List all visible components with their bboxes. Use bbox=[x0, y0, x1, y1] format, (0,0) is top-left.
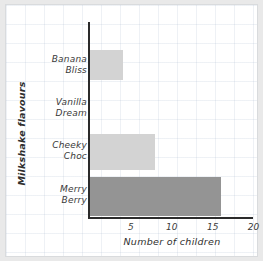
category-label-line2: Berry bbox=[13, 195, 87, 206]
bar-merry-berry bbox=[90, 177, 221, 216]
chart-page: Banana Bliss Vanilla Dream Cheeky Choc M… bbox=[0, 0, 263, 261]
bar-cheeky-choc bbox=[90, 134, 155, 170]
y-axis-title: Milkshake flavours bbox=[16, 74, 27, 194]
x-axis-title: Number of children bbox=[88, 236, 256, 247]
x-axis-line bbox=[88, 217, 253, 219]
category-label-line1: Merry bbox=[60, 184, 87, 194]
x-tick-label-15: 15 bbox=[201, 222, 225, 232]
category-label-line1: Banana bbox=[52, 54, 87, 64]
bar-banana-bliss bbox=[90, 50, 123, 80]
x-tick-label-5: 5 bbox=[119, 222, 143, 232]
x-tick-label-10: 10 bbox=[160, 222, 184, 232]
category-label-line1: Vanilla bbox=[56, 97, 87, 107]
category-label-line1: Cheeky bbox=[52, 140, 87, 150]
bar-chart-plot: Banana Bliss Vanilla Dream Cheeky Choc M… bbox=[0, 0, 263, 261]
x-tick-label-20: 20 bbox=[242, 222, 263, 232]
